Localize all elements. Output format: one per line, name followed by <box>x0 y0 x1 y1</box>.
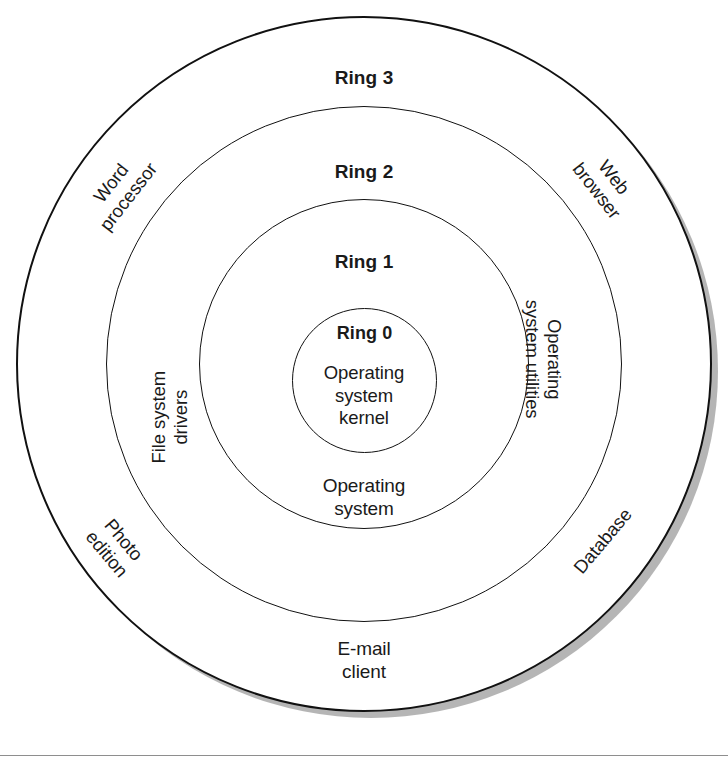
page-bottom-rule <box>0 755 728 756</box>
ring-1-content: Operating system <box>284 474 444 520</box>
rings-diagram: Ring 3 Ring 2 Ring 1 Ring 0 Operating sy… <box>0 0 728 768</box>
label-file-system-drivers: File system drivers <box>148 342 192 492</box>
label-operating-system-utilities: Operating system utilities <box>521 274 565 444</box>
ring-3-label: Ring 3 <box>264 66 464 89</box>
ring-0-content: Operating system kernel <box>284 362 444 430</box>
ring-2-label: Ring 2 <box>264 160 464 183</box>
ring-3-content: E-mail client <box>284 637 444 683</box>
ring-1-label: Ring 1 <box>264 250 464 273</box>
ring-0-label: Ring 0 <box>292 323 437 345</box>
